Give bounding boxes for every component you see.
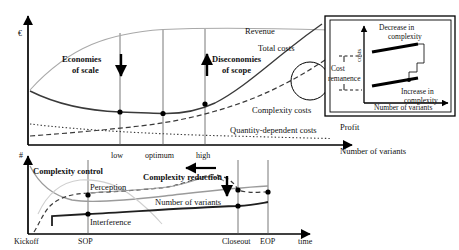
variant-level-optimum: optimum [145,152,174,160]
label-complexity-control: Complexity control [33,167,103,176]
inset-decrease-line2: complexity [388,33,422,41]
upper-y-axis-label: € [18,30,22,38]
label-quantity-dependent-costs: Quantity-dependent costs [230,126,317,135]
inset-marker [407,78,411,82]
inset-x-axis-label: Number of variants [374,104,432,112]
marker-low [117,109,122,114]
label-perception: Perception [90,183,126,192]
lower-y-axis-label: # [19,152,23,160]
label-complexity-reduction: Complexity reduction [143,173,222,182]
inset-remanence-line2: remanence [328,75,360,83]
variant-level-low: low [111,152,123,160]
marker-closeout-lower [235,203,240,208]
timeline-eop: EOP [260,238,275,246]
variant-level-high: high [196,152,210,160]
inset-remanence-line1: Cost [331,65,345,73]
timeline-closeout: Closeout [222,238,250,246]
curve-number-of-variants [34,175,268,232]
timeline-sop: SOP [78,238,93,246]
inset-increase-line1: Increase in [401,88,434,96]
marker-sop-upper [85,192,90,197]
label-diseconomies-line2: of scope [222,66,251,75]
lower-x-axis-label: time [298,238,312,246]
figure-root: € Revenue Total costs Complexity costs Q… [0,0,459,250]
marker-eop [265,189,270,194]
label-profit: Profit [340,123,359,132]
marker-high [202,101,207,106]
label-number-of-variants-lower: Number of variants [155,198,221,207]
label-total-costs: Total costs [258,44,294,53]
upper-x-axis-label: Number of variants [340,147,406,156]
marker-closeout-upper [235,187,240,192]
label-economies-line2: of scale [72,66,99,75]
zoom-highlight-circle [291,62,329,100]
label-diseconomies-line1: Diseconomies [212,55,261,64]
label-economies-line1: Economies [62,55,101,64]
marker-optimum [160,111,165,116]
inset-y-axis-label: costs [356,49,363,62]
inset-decrease-line1: Decrease in [379,24,414,32]
marker-sop-lower [85,211,90,216]
label-complexity-costs: Complexity costs [252,106,311,115]
label-interference: Interference [90,218,131,227]
timeline-kickoff: Kickoff [14,238,39,246]
label-revenue: Revenue [245,27,275,36]
